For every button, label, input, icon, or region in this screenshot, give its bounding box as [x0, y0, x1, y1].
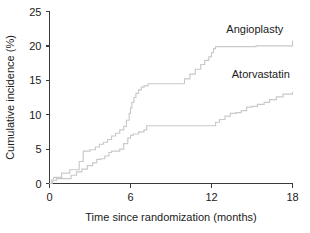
chart-canvas: 0510152025061218Time since randomization… — [0, 0, 310, 233]
y-tick-label-25: 25 — [29, 6, 41, 18]
y-tick-label-0: 0 — [35, 178, 41, 190]
y-tick-label-5: 5 — [35, 143, 41, 155]
y-tick-label-20: 20 — [29, 40, 41, 52]
series-label-atorvastatin: Atorvastatin — [232, 68, 290, 80]
x-tick-label-18: 18 — [286, 191, 298, 203]
x-axis-title: Time since randomization (months) — [85, 211, 256, 223]
series-line-atorvastatin — [50, 92, 293, 184]
x-tick-label-0: 0 — [46, 191, 52, 203]
y-axis-title: Cumulative incidence (%) — [4, 35, 16, 160]
cumulative-incidence-chart: 0510152025061218Time since randomization… — [0, 0, 310, 233]
series-label-angioplasty: Angioplasty — [226, 23, 283, 35]
chart-annotations: AngioplastyAtorvastatin — [226, 23, 289, 80]
series-line-angioplasty — [50, 40, 293, 183]
y-tick-label-10: 10 — [29, 109, 41, 121]
y-tick-label-15: 15 — [29, 74, 41, 86]
chart-axes: 0510152025061218Time since randomization… — [4, 6, 299, 224]
x-tick-label-6: 6 — [127, 191, 133, 203]
x-tick-label-12: 12 — [205, 191, 217, 203]
chart-series — [50, 40, 293, 183]
